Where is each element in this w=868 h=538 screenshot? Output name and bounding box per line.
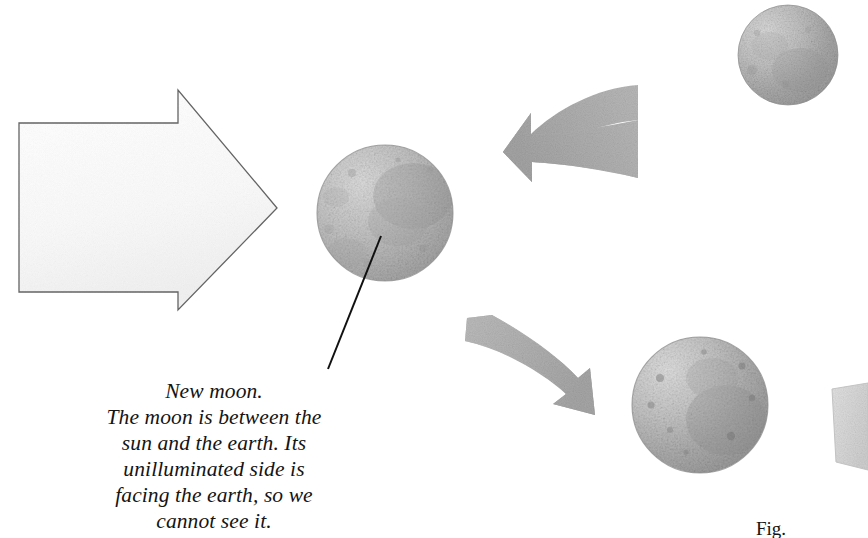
- arrow-sunlight: [19, 90, 277, 310]
- caption-line-1: New moon.: [28, 378, 400, 404]
- caption-line-6: cannot see it.: [28, 508, 400, 534]
- figure-caption: New moon. The moon is between the sun an…: [28, 378, 400, 534]
- moon-center: [317, 145, 453, 281]
- caption-line-5: facing the earth, so we: [28, 482, 400, 508]
- arrow-orbit-lower: [465, 315, 595, 415]
- arrow-orbit-edge: [832, 383, 868, 470]
- moon-bottom-right: [632, 337, 768, 473]
- caption-line-2: The moon is between the: [28, 404, 400, 430]
- figure-number-label: Fig.: [756, 518, 866, 538]
- moon-top-right: [738, 5, 838, 105]
- arrow-orbit-upper: [503, 85, 638, 182]
- moon-phase-figure: New moon. The moon is between the sun an…: [0, 0, 868, 538]
- caption-line-4: unilluminated side is: [28, 456, 400, 482]
- caption-line-3: sun and the earth. Its: [28, 430, 400, 456]
